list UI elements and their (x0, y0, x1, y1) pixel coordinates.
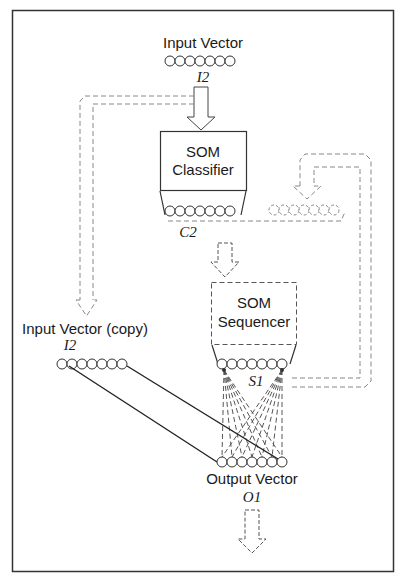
input-vector-nodes (165, 56, 235, 66)
s1-right-connector (280, 368, 284, 372)
input-node (205, 56, 215, 66)
arrow-to-sequencer-icon (211, 243, 239, 277)
copy-to-output-line-1 (69, 366, 217, 462)
copy-path-outer (80, 96, 194, 300)
input-vector-group: Input Vector I2 (163, 34, 243, 85)
input-copy-symbol: I2 (63, 337, 77, 353)
feedback-path-outer (292, 154, 371, 387)
sequencer-symbol: S1 (249, 373, 264, 389)
classifier-line2: Classifier (172, 161, 234, 178)
output-arrow-icon (238, 510, 266, 553)
input-copy-label: Input Vector (copy) (22, 320, 148, 337)
sequencer-nodes (217, 359, 287, 369)
sequencer-line2: Sequencer (218, 313, 291, 330)
s1-left-connector (222, 368, 226, 372)
input-node (195, 56, 205, 66)
arrow-to-classifier-icon (187, 87, 215, 130)
input-vector-label: Input Vector (163, 34, 243, 51)
feedback-path-inner (292, 167, 360, 378)
input-node (175, 56, 185, 66)
input-copy-group: Input Vector (copy) I2 (22, 320, 148, 369)
input-copy-nodes (57, 359, 127, 369)
feedback-vector-nodes (269, 205, 339, 215)
output-vector-group: Output Vector O1 (206, 457, 298, 505)
input-node (185, 56, 195, 66)
output-vector-label: Output Vector (206, 470, 298, 487)
input-node (225, 56, 235, 66)
arrow-to-copy-icon (76, 300, 97, 316)
input-node (165, 56, 175, 66)
classifier-line1: SOM (186, 143, 220, 160)
arrow-to-feedback-icon (293, 186, 321, 199)
input-node (215, 56, 225, 66)
input-vector-symbol: I2 (196, 69, 210, 85)
output-vector-symbol: O1 (243, 489, 261, 505)
som-architecture-diagram: Input Vector I2 SOM Classifier (0, 0, 407, 587)
som-classifier-group: SOM Classifier C2 (160, 132, 247, 241)
sequencer-line1: SOM (237, 294, 271, 311)
classifier-nodes (165, 206, 235, 216)
classifier-symbol: C2 (179, 224, 197, 240)
